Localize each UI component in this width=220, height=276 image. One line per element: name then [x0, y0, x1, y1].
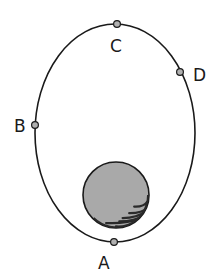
point-marker — [111, 239, 118, 246]
orbit-svg: ABCD — [0, 0, 220, 276]
point-label: A — [98, 253, 110, 273]
orbit-point-a: A — [98, 239, 117, 273]
point-label: D — [193, 65, 206, 85]
orbit-points: ABCD — [14, 21, 206, 273]
point-marker — [32, 122, 39, 129]
point-marker — [177, 69, 184, 76]
point-label: C — [110, 36, 122, 56]
orbit-point-c: C — [110, 21, 122, 56]
planet — [83, 162, 149, 228]
point-label: B — [14, 116, 26, 136]
orbit-point-d: D — [177, 65, 206, 85]
point-marker — [114, 21, 121, 28]
orbit-diagram: ABCD — [0, 0, 220, 276]
